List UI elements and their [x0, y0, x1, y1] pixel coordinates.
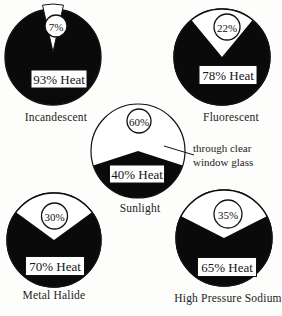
annotation-line-1: through clear: [193, 141, 269, 155]
percent-badge-label: 35%: [218, 209, 238, 221]
pie-caption-metal-halide: Metal Halide: [0, 289, 134, 301]
pie-caption-incandescent: Incandescent: [0, 111, 136, 123]
pie-caption-high-pressure-sodium: High Pressure Sodium: [148, 292, 282, 304]
pie-caption-sunlight: Sunlight: [60, 202, 220, 214]
heat-label: 65% Heat: [201, 260, 253, 275]
annotation-line-2: window glass: [193, 155, 269, 169]
window-glass-annotation: through clear window glass: [193, 141, 269, 169]
pie-caption-fluorescent: Fluorescent: [151, 111, 282, 123]
